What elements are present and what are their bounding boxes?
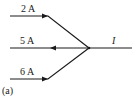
label-i: I <box>111 35 116 46</box>
panel-label: (a) <box>2 85 13 97</box>
label-2a: 2 A <box>21 3 36 14</box>
label-5a: 5 A <box>20 35 35 46</box>
arrow-right-icon <box>42 77 48 82</box>
label-6a: 6 A <box>20 66 35 77</box>
arrow-left-icon <box>50 46 56 51</box>
junction-node <box>88 47 91 50</box>
arrow-right-icon <box>42 14 48 19</box>
node-current-diagram: 2 A 5 A 6 A I (a) <box>0 0 139 104</box>
